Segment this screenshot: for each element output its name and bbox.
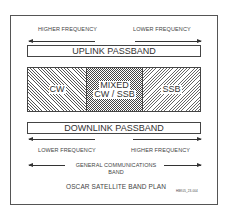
arrow-left-icon [29,41,95,42]
figure-title: OSCAR SATELLITE BAND PLAN [60,183,172,190]
arrow-right-icon [164,165,201,166]
segment-mixed: MIXED CW / SSB [86,67,143,112]
top-right-label: LOWER FREQUENCY [133,26,191,32]
figure-id: HBK05_23-004 [176,189,198,193]
bottom-right-label: HIGHER FREQUENCY [131,147,190,153]
segment-ssb: SSB [142,67,201,112]
arrow-right-icon [135,41,201,42]
arrow-left-icon [29,165,65,166]
uplink-passband: UPLINK PASSBAND [27,45,201,57]
segment-cw: CW [27,67,87,112]
segment-mixed-label-2: CW / SSB [93,90,136,99]
arrow-left-icon [29,139,95,140]
general-band-label-2: BAND [70,169,162,175]
segment-cw-label: CW [49,85,66,94]
segment-ssb-label: SSB [161,85,181,94]
top-left-label: HIGHER FREQUENCY [38,26,97,32]
arrow-right-icon [133,139,201,140]
bottom-left-label: LOWER FREQUENCY [38,147,96,153]
downlink-passband: DOWNLINK PASSBAND [27,122,201,134]
general-band-label-1: GENERAL COMMUNICATIONS [70,162,162,168]
